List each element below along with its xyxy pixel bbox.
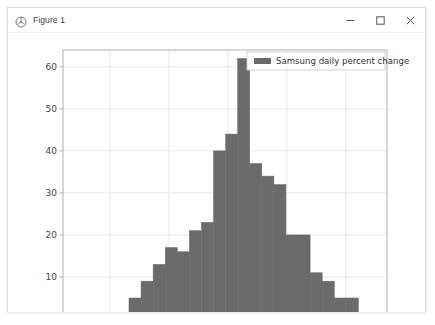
histogram-bar (250, 163, 262, 312)
histogram-bar (141, 281, 153, 312)
figure-canvas[interactable]: −4−2024 0102030405060 Samsung daily perc… (8, 33, 425, 312)
histogram-bar (226, 134, 238, 312)
histogram-bar (189, 231, 201, 312)
y-tick-label: 10 (46, 272, 58, 282)
histogram-bar (129, 298, 141, 312)
y-axis-ticks: 0102030405060 (46, 62, 63, 312)
legend-label: Samsung daily percent change (276, 56, 409, 66)
matplotlib-figure-icon (15, 14, 27, 26)
histogram-bars (81, 58, 371, 312)
histogram-bar (262, 176, 274, 312)
figure-window: Figure 1 − (7, 7, 426, 312)
window-title: Figure 1 (33, 15, 65, 25)
maximize-icon (375, 15, 386, 26)
y-tick-label: 40 (46, 146, 58, 156)
histogram-bar (201, 222, 213, 312)
legend[interactable]: Samsung daily percent change (247, 52, 409, 70)
y-tick-label: 20 (46, 230, 58, 240)
close-icon (405, 15, 416, 26)
histogram-bar (286, 235, 298, 312)
histogram-plot: −4−2024 0102030405060 Samsung daily perc… (8, 33, 425, 312)
minimize-icon (345, 15, 356, 26)
close-button[interactable] (395, 8, 425, 32)
maximize-button[interactable] (365, 8, 395, 32)
legend-swatch (254, 58, 271, 64)
minimize-button[interactable] (335, 8, 365, 32)
histogram-bar (334, 298, 346, 312)
histogram-bar (238, 58, 250, 312)
window-controls (335, 8, 425, 32)
histogram-bar (322, 281, 334, 312)
y-tick-label: 30 (46, 188, 58, 198)
histogram-bar (153, 264, 165, 312)
title-bar: Figure 1 (8, 8, 425, 33)
histogram-bar (214, 151, 226, 312)
histogram-bar (274, 185, 286, 313)
histogram-bar (177, 252, 189, 312)
histogram-bar (310, 273, 322, 312)
y-tick-label: 60 (46, 62, 58, 72)
y-tick-label: 50 (46, 104, 58, 114)
histogram-bar (165, 248, 177, 312)
histogram-bar (298, 235, 310, 312)
histogram-bar (346, 298, 358, 312)
